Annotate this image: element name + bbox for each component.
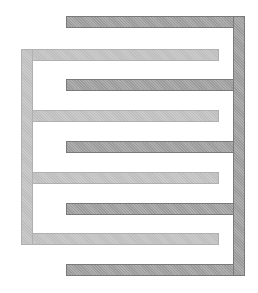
light-electrode-finger	[21, 172, 219, 184]
dark-electrode-finger	[66, 16, 245, 28]
light-electrode-finger	[21, 49, 219, 61]
dark-electrode-finger	[66, 203, 245, 215]
light-electrode-spine	[21, 49, 33, 245]
dark-electrode-spine	[233, 16, 245, 276]
light-electrode-finger	[21, 233, 219, 245]
light-electrode-finger	[21, 110, 219, 122]
dark-electrode-finger	[66, 264, 245, 276]
dark-electrode-finger	[66, 79, 245, 91]
dark-electrode-finger	[66, 141, 245, 153]
